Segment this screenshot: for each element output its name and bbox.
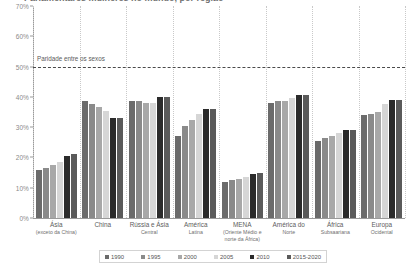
x-axis-label-sub: (Oriente Médio e norte da África)	[219, 229, 266, 243]
legend-item[interactable]: 2010	[250, 254, 269, 260]
x-axis-label: Ásia(exceto da China)	[33, 221, 80, 236]
legend-item[interactable]: 1990	[105, 254, 124, 260]
bar	[189, 120, 195, 218]
y-tick-label: 0%	[19, 215, 29, 222]
bar	[89, 104, 95, 218]
bar	[396, 100, 402, 218]
x-axis-label-main: MENA	[219, 221, 266, 229]
bar	[143, 103, 149, 218]
legend-label: 2015-2020	[293, 254, 321, 260]
bar	[164, 97, 170, 218]
x-axis-label-main: África	[312, 221, 359, 229]
legend-item[interactable]: 2015-2020	[287, 254, 321, 260]
x-axis-label-main: Ásia	[33, 221, 80, 229]
bar	[350, 130, 356, 218]
bar	[203, 109, 209, 218]
bar	[382, 104, 388, 218]
bar	[275, 101, 281, 218]
x-axis-label-sub: Central	[126, 229, 173, 236]
plot-area: 0%10%20%30%40%50%60%70%Paridade entre os…	[33, 6, 405, 218]
legend-label: 2000	[184, 254, 197, 260]
bar	[361, 115, 367, 218]
bar	[343, 130, 349, 218]
x-axis-label-main: América	[173, 221, 220, 229]
x-axis-line	[33, 218, 405, 219]
bar	[71, 154, 77, 218]
bar	[210, 109, 216, 218]
x-axis-label-main: Europa	[359, 221, 406, 229]
x-axis-label-sub: Subsaariana	[312, 229, 359, 236]
legend-swatch-icon	[178, 255, 182, 259]
bar	[322, 138, 328, 218]
bar	[329, 136, 335, 218]
bar	[175, 136, 181, 218]
bar	[296, 95, 302, 218]
bar	[336, 133, 342, 218]
y-tick-label: 60%	[16, 33, 29, 40]
bar-group	[219, 6, 266, 218]
legend-swatch-icon	[287, 255, 291, 259]
legend-label: 1995	[147, 254, 160, 260]
bar	[268, 103, 274, 218]
x-axis-label-main: Rússia e Ásia	[126, 221, 173, 229]
x-axis-label-sub: (exceto da China)	[33, 229, 80, 236]
bar	[157, 97, 163, 218]
legend-swatch-icon	[214, 255, 218, 259]
legend-label: 2010	[256, 254, 269, 260]
bar	[36, 170, 42, 218]
bar	[236, 179, 242, 218]
bar	[96, 107, 102, 218]
legend-swatch-icon	[105, 255, 109, 259]
bar	[64, 156, 70, 218]
bar	[150, 103, 156, 218]
bar	[229, 180, 235, 218]
bar	[243, 177, 249, 218]
bar	[303, 95, 309, 218]
legend-item[interactable]: 2000	[178, 254, 197, 260]
y-tick-label: 20%	[16, 154, 29, 161]
x-axis-label: AméricaLatina	[173, 221, 220, 236]
legend-item[interactable]: 1995	[141, 254, 160, 260]
x-axis-label-sub: Latina	[173, 229, 220, 236]
bar	[136, 101, 142, 218]
x-axis-label: ÁfricaSubsaariana	[312, 221, 359, 236]
bar	[282, 101, 288, 218]
bar-group	[173, 6, 220, 218]
x-axis-label: Rússia e ÁsiaCentral	[126, 221, 173, 236]
legend-label: 1990	[111, 254, 124, 260]
y-tick-label: 50%	[16, 63, 29, 70]
legend-label: 2005	[220, 254, 233, 260]
x-axis-label: MENA(Oriente Médio e norte da África)	[219, 221, 266, 243]
x-axis-label: América doNorte	[266, 221, 313, 236]
bar	[110, 118, 116, 218]
bar	[257, 173, 263, 218]
y-tick-label: 40%	[16, 93, 29, 100]
x-axis-label-main: China	[80, 221, 127, 229]
chart-container: Parlamentares mulheres no mundo, por reg…	[0, 0, 412, 269]
bar	[196, 114, 202, 218]
bar	[289, 98, 295, 218]
x-axis-label: EuropaOcidental	[359, 221, 406, 236]
bar-group	[359, 6, 406, 218]
legend-item[interactable]: 2005	[214, 254, 233, 260]
chart-title: Parlamentares mulheres no mundo, por reg…	[24, 0, 394, 3]
y-tick-label: 70%	[16, 3, 29, 10]
bar	[368, 114, 374, 218]
bar-group	[33, 6, 80, 218]
x-axis-labels: Ásia(exceto da China)ChinaRússia e ÁsiaC…	[33, 221, 405, 251]
bar	[375, 112, 381, 218]
bar-group	[80, 6, 127, 218]
legend-swatch-icon	[250, 255, 254, 259]
x-axis-label-sub: Ocidental	[359, 229, 406, 236]
bar	[389, 100, 395, 218]
x-axis-label: China	[80, 221, 127, 229]
bar	[315, 141, 321, 218]
bar-group	[266, 6, 313, 218]
bar	[129, 101, 135, 218]
bar	[117, 118, 123, 218]
y-tick-label: 10%	[16, 184, 29, 191]
bar-group	[126, 6, 173, 218]
bar	[182, 126, 188, 218]
bar-group	[312, 6, 359, 218]
bar	[50, 165, 56, 218]
